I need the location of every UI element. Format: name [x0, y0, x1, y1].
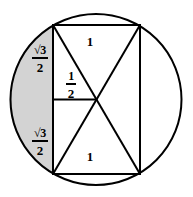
geometry-figure: √3 2 √3 2 1 2 1 1: [0, 0, 193, 197]
label-one-half: 1 2: [58, 70, 84, 101]
label-one-top: 1: [82, 35, 98, 48]
fraction-bar: [32, 140, 48, 142]
label-sqrt3-over-2-top-numerator: √3: [32, 44, 48, 57]
label-one-half-numerator: 1: [66, 70, 76, 83]
label-sqrt3-over-2-top-denominator: 2: [32, 60, 48, 74]
label-one-bottom: 1: [82, 150, 98, 163]
geometry-canvas: [0, 0, 193, 197]
label-sqrt3-over-2-bottom-denominator: 2: [32, 143, 48, 157]
label-one-half-denominator: 2: [66, 86, 76, 100]
fraction-bar: [32, 57, 48, 59]
label-sqrt3-over-2-bottom: √3 2: [26, 127, 54, 158]
label-sqrt3-over-2-bottom-numerator: √3: [32, 127, 48, 140]
fraction-bar: [66, 83, 76, 85]
label-sqrt3-over-2-top: √3 2: [26, 44, 54, 75]
